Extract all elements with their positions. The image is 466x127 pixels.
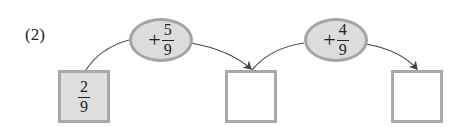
start-fraction: 2 9 bbox=[78, 79, 90, 115]
denominator: 9 bbox=[80, 99, 88, 115]
operation-oval-2: + 4 9 bbox=[304, 18, 368, 62]
numerator: 2 bbox=[80, 79, 88, 95]
step-fraction-2: 4 9 bbox=[337, 22, 349, 58]
denominator: 9 bbox=[339, 42, 347, 58]
answer-box-1[interactable] bbox=[225, 70, 277, 123]
connector-line bbox=[86, 40, 129, 70]
plus-sign: + bbox=[148, 29, 160, 51]
answer-box-2[interactable] bbox=[391, 70, 443, 123]
numerator: 4 bbox=[339, 22, 347, 38]
plus-sign: + bbox=[323, 29, 335, 51]
arrow-icon bbox=[191, 43, 251, 69]
step-fraction-1: 5 9 bbox=[162, 22, 174, 58]
arrow-icon bbox=[366, 44, 417, 69]
connector-line bbox=[252, 43, 304, 70]
denominator: 9 bbox=[164, 42, 172, 58]
start-value-box: 2 9 bbox=[58, 70, 110, 123]
numerator: 5 bbox=[164, 22, 172, 38]
operation-oval-1: + 5 9 bbox=[129, 18, 193, 62]
